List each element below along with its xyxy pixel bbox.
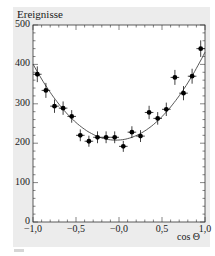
plot-frame — [33, 25, 205, 222]
plot-area — [0, 0, 215, 256]
